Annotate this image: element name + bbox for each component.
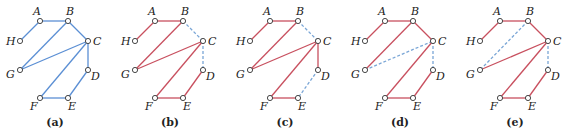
- node-A: [497, 18, 502, 23]
- node-B: [295, 18, 300, 23]
- node-label-G: G: [351, 68, 360, 81]
- node-label-B: B: [295, 5, 304, 18]
- edge-layer: [20, 21, 88, 98]
- node-D: [315, 67, 320, 72]
- node-label-G: G: [466, 68, 475, 81]
- node-layer: [132, 18, 205, 100]
- node-C: [85, 38, 90, 43]
- node-label-B: B: [525, 5, 534, 18]
- node-label-G: G: [121, 68, 130, 81]
- node-label-A: A: [147, 5, 156, 18]
- panel-caption: (c): [276, 116, 293, 129]
- edge-B-G: [135, 21, 183, 70]
- node-label-C: C: [438, 35, 447, 48]
- node-label-F: F: [374, 100, 383, 113]
- node-B: [180, 18, 185, 23]
- node-label-E: E: [182, 100, 191, 113]
- edge-layer: [480, 21, 548, 98]
- edge-H-A: [250, 21, 270, 41]
- spanning-tree-figure: ABCDEFGH (a) ABCDEFGH (b) ABCDEFGH (c) A…: [0, 0, 581, 131]
- edge-layer: [250, 21, 318, 98]
- node-label-D: D: [550, 70, 560, 83]
- node-label-C: C: [553, 35, 562, 48]
- node-F: [37, 95, 42, 100]
- node-label-E: E: [297, 100, 306, 113]
- node-label-D: D: [320, 70, 330, 83]
- node-C: [315, 38, 320, 43]
- edge-C-G: [20, 41, 88, 70]
- edge-G-C: [250, 41, 318, 70]
- panel-caption: (b): [161, 116, 179, 129]
- node-D: [200, 67, 205, 72]
- node-label-A: A: [377, 5, 386, 18]
- edge-H-A: [20, 21, 40, 41]
- node-layer: [247, 18, 320, 100]
- node-label-F: F: [29, 100, 38, 113]
- node-label-H: H: [5, 35, 16, 48]
- node-A: [152, 18, 157, 23]
- edge-B-G: [20, 21, 68, 70]
- node-G: [17, 67, 22, 72]
- edge-E-D: [528, 70, 548, 98]
- node-C: [545, 38, 550, 43]
- node-B: [525, 18, 530, 23]
- panel-caption: (a): [46, 116, 64, 129]
- edge-B-C: [528, 21, 548, 41]
- graph-panel-c: ABCDEFGH (c): [230, 0, 346, 131]
- node-label-A: A: [492, 5, 501, 18]
- node-label-E: E: [527, 100, 536, 113]
- node-F: [152, 95, 157, 100]
- node-label-E: E: [412, 100, 421, 113]
- edge-B-C-dashed: [183, 21, 203, 41]
- node-label-B: B: [410, 5, 419, 18]
- node-label-G: G: [6, 68, 15, 81]
- node-layer: [477, 18, 550, 100]
- edge-layer: [365, 21, 433, 98]
- node-H: [17, 38, 22, 43]
- graph-panel-d: ABCDEFGH (d): [345, 0, 461, 131]
- node-B: [410, 18, 415, 23]
- node-label-A: A: [262, 5, 271, 18]
- node-label-B: B: [180, 5, 189, 18]
- panel-caption: (d): [391, 116, 409, 129]
- edge-B-G: [365, 21, 413, 70]
- node-D: [430, 67, 435, 72]
- node-F: [497, 95, 502, 100]
- edge-C-F: [40, 41, 88, 98]
- edge-layer: [135, 21, 203, 98]
- edge-G-C-dashed: [365, 41, 433, 70]
- node-D: [85, 67, 90, 72]
- graph-panel-a: ABCDEFGH (a): [0, 0, 116, 131]
- node-label-H: H: [120, 35, 131, 48]
- graph-panel-b: ABCDEFGH (b): [115, 0, 231, 131]
- node-label-F: F: [489, 100, 498, 113]
- node-F: [382, 95, 387, 100]
- node-H: [247, 38, 252, 43]
- node-label-C: C: [93, 35, 102, 48]
- graph-canvas: ABCDEFGH (b): [115, 0, 231, 131]
- edge-G-C: [480, 41, 548, 70]
- node-H: [362, 38, 367, 43]
- node-layer: [17, 18, 90, 100]
- edge-B-C: [68, 21, 88, 41]
- graph-canvas: ABCDEFGH (c): [230, 0, 346, 131]
- node-A: [37, 18, 42, 23]
- node-label-D: D: [435, 70, 445, 83]
- node-label-H: H: [350, 35, 361, 48]
- node-H: [477, 38, 482, 43]
- node-label-E: E: [67, 100, 76, 113]
- node-H: [132, 38, 137, 43]
- node-A: [267, 18, 272, 23]
- graph-panel-e: ABCDEFGH (e): [460, 0, 576, 131]
- edge-C-F: [155, 41, 203, 98]
- edge-H-A: [135, 21, 155, 41]
- node-F: [267, 95, 272, 100]
- node-A: [382, 18, 387, 23]
- node-label-F: F: [144, 100, 153, 113]
- edge-H-A: [365, 21, 385, 41]
- node-G: [132, 67, 137, 72]
- node-D: [545, 67, 550, 72]
- edge-B-G-dashed: [480, 21, 528, 70]
- node-B: [65, 18, 70, 23]
- node-label-H: H: [235, 35, 246, 48]
